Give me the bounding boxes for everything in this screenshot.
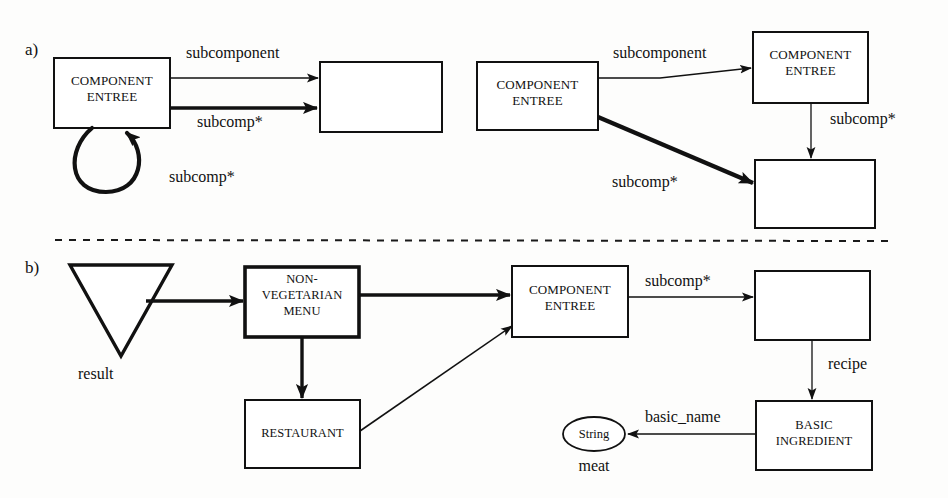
node-b-basic-ingredient-line2: INGREDIENT [756,434,872,448]
node-a-right-empty[interactable] [755,160,875,228]
node-a-left-component-entree-line1: COMPONENT [54,74,170,89]
node-a-right-source-line2: ENTREE [477,94,598,109]
node-b-string-label: String [563,427,625,442]
edge-b-restaurant-to-component [360,326,512,431]
section-label-a: a) [25,40,38,59]
label-b-meat: meat [563,457,625,475]
edge-a-right-subcomponent [598,68,751,78]
figure-canvas: a) b) COMPONENT ENTREE subcomponent subc… [0,0,948,498]
node-b-menu-line1: NON- [245,272,359,286]
node-b-restaurant-label: RESTAURANT [243,426,362,440]
section-label-b: b) [25,258,39,277]
node-b-result-triangle[interactable] [70,265,172,356]
node-b-component-entree-line1: COMPONENT [512,283,628,298]
edge-label-b-recipe: recipe [828,355,867,373]
edge-label-a-right-subcomponent: subcomponent [613,44,706,62]
node-b-menu-line2: VEGETARIAN [245,288,359,302]
node-b-component-entree-line2: ENTREE [512,299,628,314]
edge-label-b-basic-name: basic_name [645,408,721,426]
edge-label-a-right-subcomp-star-vertical: subcomp* [830,110,896,128]
edge-label-a-left-subcomponent: subcomponent [186,44,279,62]
edge-a-left-selfloop-subcomp-star [75,128,139,192]
edge-label-a-left-subcomp-star: subcomp* [197,113,263,131]
edge-label-a-left-selfloop-subcomp-star: subcomp* [169,168,235,186]
node-a-right-target-line1: COMPONENT [753,48,868,63]
node-b-menu-line3: MENU [245,304,359,318]
section-divider [55,240,892,241]
node-b-empty[interactable] [755,271,870,340]
label-b-result: result [78,365,114,383]
node-a-right-target-line2: ENTREE [753,64,868,79]
edge-label-b-subcomp-star: subcomp* [645,272,711,290]
node-a-left-component-entree-line2: ENTREE [54,90,170,105]
node-a-left-target[interactable] [320,62,442,132]
edge-label-a-right-subcomp-star-diagonal: subcomp* [612,173,678,191]
node-b-basic-ingredient-line1: BASIC [756,418,872,432]
node-a-right-source-line1: COMPONENT [477,78,598,93]
